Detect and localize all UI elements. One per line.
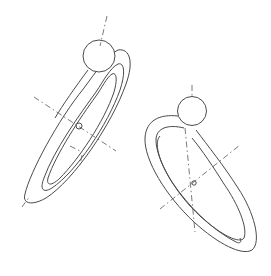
ring-illustration <box>0 0 271 276</box>
drawing-canvas <box>0 0 271 276</box>
right-ring-stone <box>178 97 207 126</box>
background <box>0 0 271 276</box>
left-ring-stone <box>83 40 115 72</box>
